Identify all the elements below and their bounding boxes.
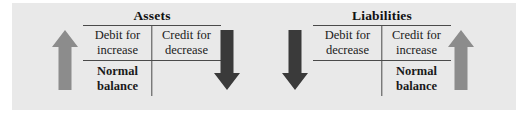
assets-increase-arrow bbox=[52, 30, 78, 90]
liabilities-normal-line2: balance bbox=[396, 79, 437, 93]
assets-credit-normal-empty-cell bbox=[152, 61, 221, 96]
account-title-assets: Assets bbox=[83, 8, 221, 25]
assets-credit-line2: decrease bbox=[165, 43, 208, 57]
liabilities-decrease-arrow bbox=[282, 30, 308, 90]
liabilities-credit-line2: increase bbox=[396, 43, 437, 57]
account-grid-assets: Debit for increase Credit for decrease bbox=[83, 26, 221, 60]
column-divider bbox=[151, 26, 152, 60]
assets-debit-line2: increase bbox=[97, 43, 138, 57]
account-normal-row-liabilities: Normal balance bbox=[313, 61, 451, 96]
liabilities-increase-arrow bbox=[448, 30, 474, 90]
assets-normal-line1: Normal bbox=[97, 64, 138, 78]
debit-credit-rules-figure: Assets Debit for increase Credit for dec… bbox=[0, 0, 528, 122]
assets-normal-balance-cell: Normal balance bbox=[83, 61, 152, 96]
assets-credit-cell: Credit for decrease bbox=[152, 26, 221, 60]
assets-normal-line2: balance bbox=[97, 79, 138, 93]
assets-decrease-arrow bbox=[214, 30, 240, 90]
liabilities-normal-line1: Normal bbox=[396, 64, 437, 78]
liabilities-debit-line2: decrease bbox=[326, 43, 369, 57]
assets-credit-line1: Credit for bbox=[162, 28, 211, 42]
account-normal-row-assets: Normal balance bbox=[83, 61, 221, 96]
liabilities-debit-normal-empty-cell bbox=[313, 61, 382, 96]
account-title-liabilities: Liabilities bbox=[313, 8, 451, 25]
liabilities-debit-cell: Debit for decrease bbox=[313, 26, 382, 60]
t-account-assets: Assets Debit for increase Credit for dec… bbox=[83, 8, 221, 96]
column-divider bbox=[381, 61, 382, 96]
account-grid-liabilities: Debit for decrease Credit for increase bbox=[313, 26, 451, 60]
column-divider bbox=[381, 26, 382, 60]
t-account-liabilities: Liabilities Debit for decrease Credit fo… bbox=[313, 8, 451, 96]
assets-debit-line1: Debit for bbox=[95, 28, 140, 42]
liabilities-normal-balance-cell: Normal balance bbox=[382, 61, 451, 96]
column-divider bbox=[151, 61, 152, 96]
liabilities-credit-cell: Credit for increase bbox=[382, 26, 451, 60]
liabilities-credit-line1: Credit for bbox=[392, 28, 441, 42]
liabilities-debit-line1: Debit for bbox=[325, 28, 370, 42]
assets-debit-cell: Debit for increase bbox=[83, 26, 152, 60]
